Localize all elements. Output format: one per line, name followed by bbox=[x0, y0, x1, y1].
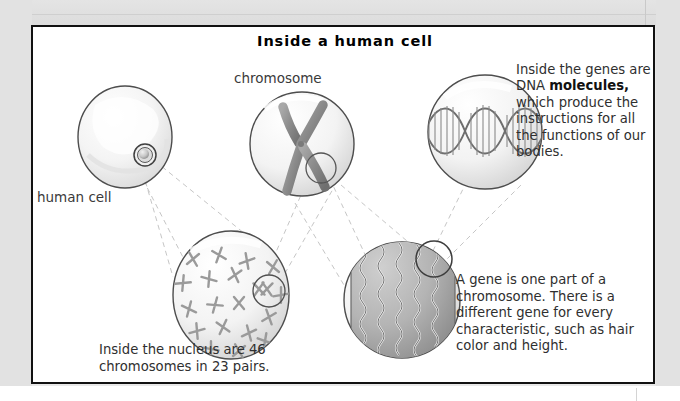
caption-nucleus: Inside the nucleus are 46 chromosomes in… bbox=[99, 342, 359, 375]
caption-line-1: Inside the bbox=[516, 62, 581, 77]
caption-bold-molecules: molecules, bbox=[549, 78, 629, 93]
background-left-band bbox=[0, 0, 32, 386]
background-top-band bbox=[0, 0, 680, 26]
coiled-dna-chromosome-illustration bbox=[344, 238, 460, 364]
background-horizontal-seam bbox=[0, 14, 680, 15]
label-human-cell: human cell bbox=[37, 189, 112, 205]
background-right-band bbox=[656, 0, 680, 386]
caption-gene-definition: A gene is one part of a chromosome. Ther… bbox=[456, 272, 654, 355]
human-cell-illustration bbox=[78, 86, 172, 188]
caption-line-4: produce the bbox=[559, 95, 639, 110]
caption-after-bold: which bbox=[516, 95, 554, 110]
nucleus-with-chromosomes-illustration bbox=[173, 231, 289, 359]
caption-line-5: instructions for bbox=[516, 111, 616, 126]
background-bottom-strip bbox=[0, 386, 680, 401]
background-bottom-tick bbox=[636, 388, 637, 401]
figure-title: Inside a human cell bbox=[33, 33, 655, 49]
chromosome-illustration bbox=[250, 92, 354, 196]
figure-panel: Inside a human cell chromosome human cel… bbox=[31, 25, 655, 384]
caption-dna-molecules: Inside the genes are DNA molecules, whic… bbox=[516, 62, 655, 160]
background-vertical-seam bbox=[645, 0, 646, 26]
label-chromosome: chromosome bbox=[234, 70, 322, 86]
